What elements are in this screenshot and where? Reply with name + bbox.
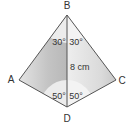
vertex-label-b: B (64, 0, 71, 11)
kite-svg: B A C D 30° 30° 50° 50° 8 cm (0, 0, 134, 134)
angle-label-b-right: 30° (69, 37, 83, 47)
vertex-label-d: D (63, 113, 70, 124)
angle-label-d-left: 50° (52, 91, 66, 101)
vertex-label-a: A (8, 74, 15, 85)
vertex-label-c: C (118, 75, 125, 86)
length-label-bd: 8 cm (70, 62, 90, 72)
kite-edges (19, 15, 116, 107)
angle-label-d-right: 50° (69, 91, 83, 101)
angle-label-b-left: 30° (52, 37, 66, 47)
kite-diagram: B A C D 30° 30° 50° 50° 8 cm (0, 0, 134, 134)
